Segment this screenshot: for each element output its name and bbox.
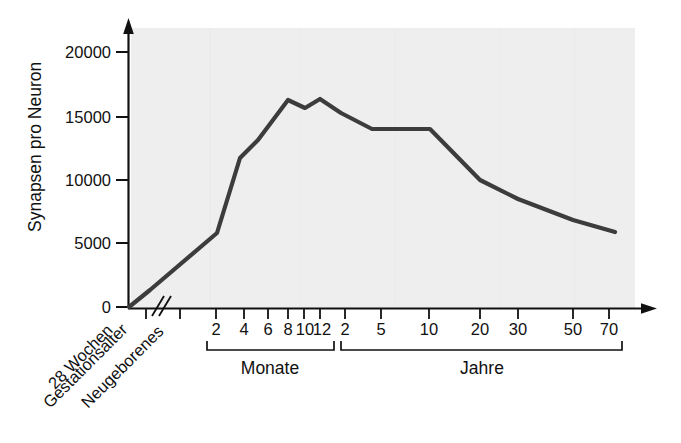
x-label-jahre-5: 5 — [376, 320, 385, 338]
y-tick-label-5000: 5000 — [74, 234, 111, 252]
x-label-monate-4: 4 — [239, 320, 248, 338]
y-tick-label-0: 0 — [102, 298, 111, 316]
plot-area-background — [131, 28, 635, 308]
x-label-jahre-70: 70 — [600, 320, 618, 338]
y-tick-label-15000: 15000 — [65, 108, 111, 126]
group-label-monate: Monate — [241, 358, 299, 378]
x-label-jahre-2: 2 — [340, 320, 349, 338]
chart-figure: 20000 15000 10000 5000 0 Synapsen pro Ne… — [0, 0, 681, 443]
y-tick-label-20000: 20000 — [65, 43, 111, 61]
x-label-jahre-50: 50 — [564, 320, 582, 338]
x-label-monate-6: 6 — [263, 320, 272, 338]
x-label-jahre-20: 20 — [471, 320, 489, 338]
x-label-monate-10: 10 — [296, 320, 314, 338]
group-label-jahre: Jahre — [460, 358, 504, 378]
x-label-jahre-30: 30 — [509, 320, 527, 338]
x-tick-labels-jahre: 2 5 10 20 30 50 70 — [340, 320, 618, 338]
x-label-monate-8: 8 — [283, 320, 292, 338]
x-label-monate-12: 12 — [313, 320, 331, 338]
synapse-density-line-chart: 20000 15000 10000 5000 0 Synapsen pro Ne… — [0, 0, 681, 443]
x-label-jahre-10: 10 — [420, 320, 438, 338]
y-tick-label-10000: 10000 — [65, 171, 111, 189]
y-axis-title: Synapsen pro Neuron — [25, 62, 45, 232]
x-label-monate-2: 2 — [211, 320, 220, 338]
